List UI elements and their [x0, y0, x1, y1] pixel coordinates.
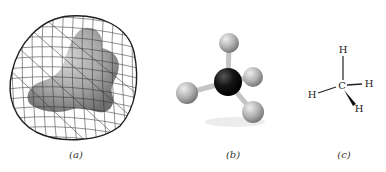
caption-a: (a)	[69, 149, 83, 160]
ball-and-stick-model-icon	[145, 0, 280, 172]
atom-h-top: H	[339, 45, 348, 55]
hydrogen-ball-right	[243, 67, 263, 87]
atom-c-central: C	[338, 81, 346, 91]
hydrogen-ball-bottom	[242, 101, 264, 123]
hydrogen-ball-top	[219, 33, 239, 53]
panel-ball-and-stick: (b)	[145, 0, 280, 172]
electron-density-mesh-icon	[0, 0, 145, 172]
atom-h-left: H	[308, 90, 317, 100]
caption-b: (b)	[226, 149, 240, 160]
carbon-ball	[214, 68, 242, 96]
panel-density-model: (a)	[0, 0, 145, 172]
atom-h-right: H	[365, 79, 374, 89]
atom-h-bottom: H	[355, 104, 364, 114]
hydrogen-ball-left	[176, 82, 198, 104]
panel-structural-formula: H C H H H (c)	[280, 0, 386, 172]
caption-c: (c)	[337, 149, 350, 160]
